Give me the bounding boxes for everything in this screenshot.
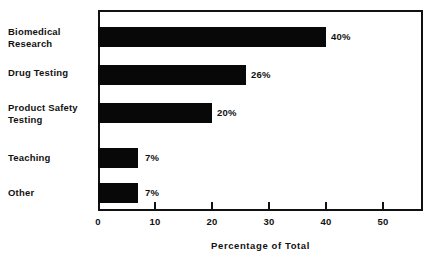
bar-other	[98, 183, 138, 203]
category-label-teaching: Teaching	[8, 152, 94, 164]
x-tick-label-20: 20	[197, 216, 227, 227]
bar-biomedical-research	[98, 27, 326, 47]
x-tick-label-0: 0	[83, 216, 113, 227]
x-tick-label-10: 10	[140, 216, 170, 227]
bar-teaching	[98, 148, 138, 168]
value-label-biomedical-research: 40%	[331, 27, 351, 47]
x-tick-mark-20	[211, 202, 213, 209]
category-label-product-safety-testing: Product Safety Testing	[8, 102, 94, 125]
category-label-biomedical-research: Biomedical Research	[8, 26, 94, 49]
x-tick-mark-10	[154, 202, 156, 209]
x-tick-mark-50	[382, 202, 384, 209]
x-tick-label-50: 50	[368, 216, 398, 227]
value-label-product-safety-testing: 20%	[217, 103, 237, 123]
x-tick-mark-30	[268, 202, 270, 209]
bar-drug-testing	[98, 65, 246, 85]
bar-chart: Biomedical Research Drug Testing Product…	[0, 0, 432, 264]
category-label-drug-testing: Drug Testing	[8, 67, 94, 79]
x-tick-label-40: 40	[311, 216, 341, 227]
category-label-other: Other	[8, 187, 94, 199]
value-label-teaching: 7%	[145, 148, 159, 168]
x-tick-label-30: 30	[254, 216, 284, 227]
x-axis-title: Percentage of Total	[98, 240, 423, 251]
value-label-drug-testing: 26%	[251, 65, 271, 85]
x-tick-mark-40	[325, 202, 327, 209]
bar-product-safety-testing	[98, 103, 212, 123]
value-label-other: 7%	[145, 183, 159, 203]
